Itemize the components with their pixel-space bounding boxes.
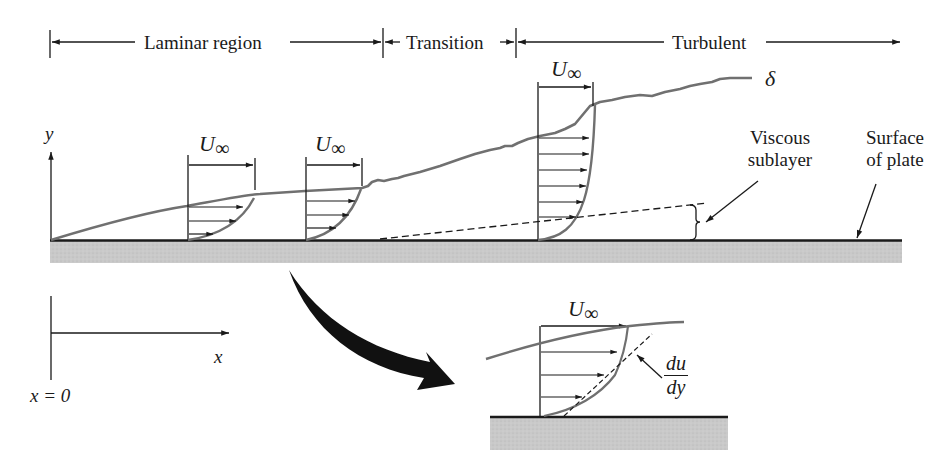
surface-pointer [857,184,876,238]
laminar-velocity-profile-2 [306,157,362,240]
viscous-sublayer-label: Viscous sublayer [735,127,825,171]
surface-of-plate-label: Surface of plate [850,127,940,171]
y-axis-label: y [45,124,53,143]
freestream-velocity-label-1: U∞ [199,133,229,158]
boundary-layer-edge [51,78,752,240]
turbulent-velocity-profile [538,82,595,240]
laminar-velocity-profile-1 [188,155,255,240]
x-axis [51,296,229,380]
velocity-gradient-label: du dy [664,352,688,399]
plate-surface [50,241,902,263]
inset-detail [486,322,728,450]
region-label-transition: Transition [402,33,487,52]
viscous-sublayer-marker [380,181,758,240]
x-axis-label: x [214,347,222,366]
origin-label: x = 0 [30,386,70,405]
region-label-turbulent: Turbulent [668,33,750,52]
boundary-layer-diagram [0,0,946,465]
freestream-velocity-label-3: U∞ [551,58,581,83]
boundary-layer-thickness-label: δ [765,68,775,90]
freestream-velocity-label-2: U∞ [315,133,345,158]
region-label-laminar: Laminar region [140,33,266,52]
magnify-arrow-icon [289,270,455,390]
freestream-velocity-label-inset: U∞ [568,298,598,323]
